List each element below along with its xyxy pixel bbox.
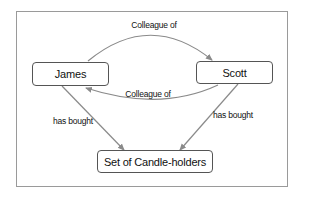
- node-candle-holders: Set of Candle-holders: [97, 150, 213, 173]
- node-james: James: [32, 62, 109, 86]
- node-label: James: [55, 68, 86, 80]
- edge-label-colleague-bottom: Colleague of: [125, 89, 170, 99]
- node-label: Set of Candle-holders: [104, 156, 206, 168]
- edge-label-colleague-top: Colleague of: [131, 20, 176, 30]
- node-scott: Scott: [196, 61, 273, 84]
- node-label: Scott: [222, 67, 246, 79]
- edge-label-has-bought-left: has bought: [53, 116, 93, 126]
- edge-james-to-scott: [88, 35, 212, 61]
- edge-label-has-bought-right: has bought: [213, 110, 253, 120]
